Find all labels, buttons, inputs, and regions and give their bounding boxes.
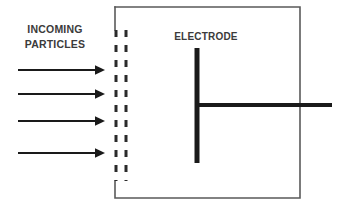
particle-arrow [18,89,105,99]
arrow-head-icon [95,116,105,126]
electrode-assembly [196,48,332,163]
incoming-particles-line-2: PARTICLES [0,37,110,52]
incoming-particle-arrows [18,65,105,158]
incoming-particles-label: INCOMING PARTICLES [0,22,110,52]
particle-arrow [18,65,105,75]
particle-arrow [18,116,105,126]
particle-arrow [18,148,105,158]
entrance-grid-mesh [116,30,126,181]
electrode-label: ELECTRODE [152,30,260,43]
diagram-canvas: INCOMING PARTICLES ELECTRODE [0,0,342,212]
arrow-head-icon [95,65,105,75]
arrow-head-icon [95,148,105,158]
incoming-particles-line-1: INCOMING [0,22,110,37]
arrow-head-icon [95,89,105,99]
